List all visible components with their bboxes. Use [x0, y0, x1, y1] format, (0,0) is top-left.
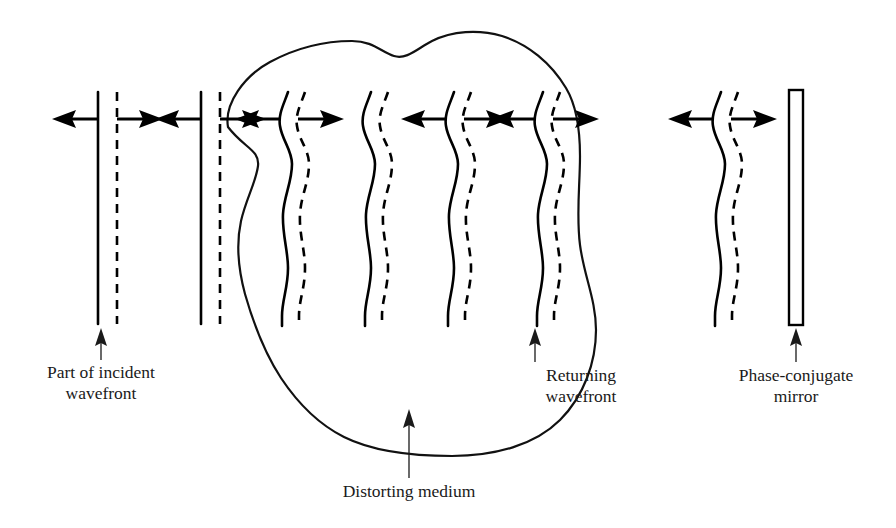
propagation-arrows-6	[490, 110, 599, 128]
propagation-arrows-7	[668, 110, 777, 128]
propagation-arrows-3	[235, 110, 344, 128]
label-mirror-line1: Phase-conjugate	[739, 365, 854, 385]
wavefront-at-mirror	[713, 92, 742, 326]
leader-returning-wavefront	[529, 328, 541, 362]
wavefront-returning	[535, 92, 564, 326]
leader-distorting-medium	[403, 409, 415, 478]
label-mirror-line2: mirror	[774, 386, 819, 406]
wavefront-distorted-2	[363, 92, 392, 326]
propagation-arrows-1	[52, 110, 163, 128]
label-distorting-medium: Distorting medium	[343, 481, 476, 501]
wavefront-distorted-3	[446, 92, 475, 326]
label-incident-line1: Part of incident	[47, 362, 155, 382]
diagram-canvas: Part of incident wavefront Distorting me…	[0, 0, 896, 528]
leader-phase-conjugate-mirror	[790, 328, 802, 362]
phase-conjugate-mirror[interactable]	[789, 90, 803, 325]
wavefront-planar-2	[201, 92, 220, 324]
wavefront-distorted-1	[280, 92, 309, 326]
label-returning-line1: Returning	[546, 365, 616, 385]
phase-conjugation-figure: Part of incident wavefront Distorting me…	[0, 0, 896, 528]
label-incident-line2: wavefront	[66, 383, 137, 403]
label-returning-line2: wavefront	[546, 386, 617, 406]
leader-incident-wavefront	[95, 328, 107, 360]
wavefront-planar-1	[98, 92, 117, 324]
